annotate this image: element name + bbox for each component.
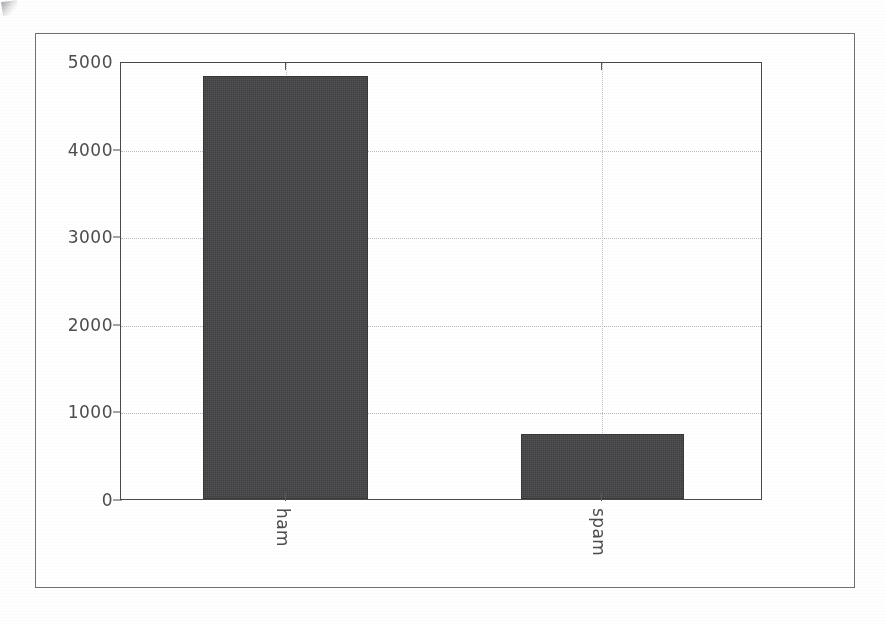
x-tick-label-ham: ham (273, 508, 293, 547)
x-tick-label-spam: spam (589, 508, 609, 556)
y-tick-label-2000: 2000 (68, 315, 113, 335)
scanned-page: 5000 4000 3000 2000 1000 0 ham spam (0, 0, 885, 624)
x-tick-mark-bottom-spam (601, 493, 602, 501)
x-tick-mark-top-ham (285, 62, 286, 70)
x-tick-mark-bottom-ham (285, 493, 286, 501)
x-tick-mark-top-spam (601, 62, 602, 70)
y-axis-tick-labels: 5000 4000 3000 2000 1000 0 (30, 62, 113, 500)
y-tick-label-1000: 1000 (68, 402, 113, 422)
plot-area (120, 62, 762, 500)
y-tick-label-5000: 5000 (68, 52, 113, 72)
bar-spam[interactable] (521, 434, 684, 499)
y-tick-label-4000: 4000 (68, 140, 113, 160)
y-tick-label-3000: 3000 (68, 227, 113, 247)
y-tick-label-0: 0 (102, 490, 113, 510)
bar-ham[interactable] (203, 76, 368, 499)
scan-artifact-smudge (1, 0, 19, 16)
